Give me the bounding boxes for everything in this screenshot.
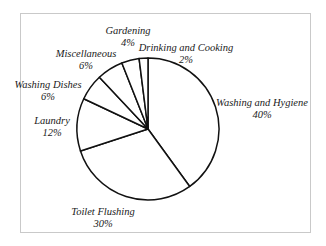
slice-label-value: 40% xyxy=(216,109,308,121)
slice-label-name: Drinking and Cooking xyxy=(139,42,234,54)
slice-label-value: 6% xyxy=(15,91,82,103)
slice-label: Laundry12% xyxy=(34,115,70,139)
slice-label: Washing and Hygiene40% xyxy=(216,97,308,121)
slice-label: Miscellaneous6% xyxy=(56,48,117,72)
slice-label: Toilet Flushing30% xyxy=(71,206,135,230)
slice-label: Drinking and Cooking2% xyxy=(139,42,234,66)
slice-label-name: Gardening xyxy=(105,25,150,37)
slice-label-name: Laundry xyxy=(34,115,70,127)
slice-label-value: 30% xyxy=(71,218,135,230)
slice-label-value: 12% xyxy=(34,127,70,139)
slice-label-name: Washing Dishes xyxy=(15,79,82,91)
slice-label-name: Washing and Hygiene xyxy=(216,97,308,109)
slice-label-value: 2% xyxy=(139,54,234,66)
slice-label-name: Miscellaneous xyxy=(56,48,117,60)
slice-label-value: 6% xyxy=(56,60,117,72)
slice-label-name: Toilet Flushing xyxy=(71,206,135,218)
slice-label: Washing Dishes6% xyxy=(15,79,82,103)
